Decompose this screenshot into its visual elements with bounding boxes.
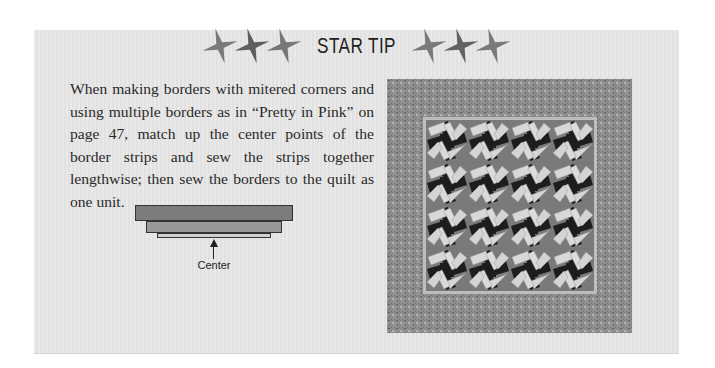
middle-border-strip: [146, 221, 282, 233]
star-tip-header: STAR TIP: [34, 30, 679, 62]
quilt-image: [387, 79, 632, 333]
star-tip-title: STAR TIP: [317, 33, 396, 59]
star-tip-panel: STAR TIP When making borders with mitere…: [34, 30, 679, 353]
quilt-illustration: [387, 79, 632, 333]
outer-border-strip: [135, 205, 293, 221]
arrow-shaft: [213, 245, 214, 259]
border-strips-diagram: Center: [134, 200, 294, 275]
star-icon: [264, 26, 304, 66]
star-icon: [473, 26, 513, 66]
inner-border-strip: [157, 233, 271, 238]
tip-text: When making borders with mitered corners…: [70, 78, 374, 214]
left-stars: [204, 26, 300, 66]
center-label: Center: [192, 259, 236, 271]
right-stars: [413, 26, 509, 66]
